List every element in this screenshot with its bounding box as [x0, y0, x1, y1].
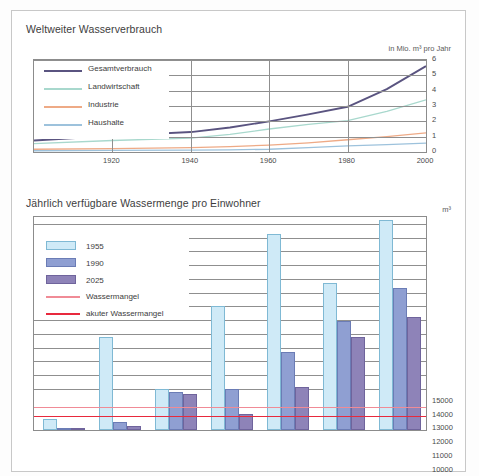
chart2-gridline: [34, 224, 426, 225]
chart2-bar: [323, 283, 337, 430]
chart2-gridline: [34, 320, 426, 321]
chart2-y-tick-label: 10000: [432, 465, 453, 474]
chart2-bar: [127, 426, 141, 430]
chart2-bar: [57, 428, 71, 430]
chart2-bar: [281, 352, 295, 430]
chart2-bar: [183, 394, 197, 430]
chart1-y-tick-label: 4: [432, 85, 436, 94]
chart2-bar: [155, 389, 169, 430]
chart2-gridline: [34, 348, 426, 349]
chart2-legend-swatch: [46, 258, 76, 267]
chart2-title: Jährlich verfügbare Wassermenge pro Einw…: [26, 197, 261, 209]
chart-weltweiter-wasserverbrauch: Weltweiter Wasserverbrauch in Mio. m³ pr…: [12, 11, 467, 189]
chart1-legend-swatch: [44, 88, 82, 90]
chart1-x-tick-label: 1980: [327, 156, 367, 165]
chart2-legend-threshold-label: Wassermangel: [86, 292, 139, 301]
chart1-x-tick-label: 1960: [248, 156, 288, 165]
chart2-legend-swatch: [46, 241, 76, 250]
chart1-x-tick-label: 2000: [405, 156, 445, 165]
chart2-y-tick-label: 15000: [432, 396, 453, 405]
chart2-legend-label: 2025: [86, 276, 104, 285]
chart2-legend-threshold-swatch: [46, 296, 80, 298]
chart2-threshold-line: [34, 407, 426, 408]
chart2-gridline: [34, 375, 426, 376]
chart2-bar: [225, 389, 239, 430]
chart2-bar: [393, 288, 407, 430]
chart1-legend-swatch: [44, 70, 82, 72]
chart2-bar: [71, 428, 85, 430]
chart1-legend-label: Industrie: [88, 100, 119, 109]
chart1-gridline-vertical: [269, 60, 270, 152]
chart2-bar: [169, 392, 183, 430]
chart1-title: Weltweiter Wasserverbrauch: [26, 23, 162, 35]
chart1-y-tick-label: 2: [432, 115, 436, 124]
chart1-legend-swatch: [44, 124, 82, 126]
chart1-y-tick-label: 6: [432, 54, 436, 63]
chart2-y-tick-label: 12000: [432, 437, 453, 446]
chart1-gridline-vertical: [191, 60, 192, 152]
chart2-y-tick-label: 11000: [432, 451, 452, 460]
chart2-bar: [113, 422, 127, 430]
chart1-gridline-vertical: [348, 60, 349, 152]
chart2-gridline: [34, 334, 426, 335]
chart2-legend-label: 1955: [86, 242, 104, 251]
chart1-x-tick-label: 1920: [91, 156, 131, 165]
chart2-bar: [379, 220, 393, 430]
chart1-legend-label: Gesamtverbrauch: [88, 64, 152, 73]
chart1-y-tick-label: 0: [432, 146, 436, 155]
chart2-bar: [337, 321, 351, 430]
chart1-y-tick-label: 1: [432, 131, 436, 140]
chart1-unit-label: in Mio. m³ pro Jahr: [388, 44, 451, 53]
chart2-bar: [407, 317, 421, 430]
chart2-bar: [267, 234, 281, 431]
chart2-legend-threshold-swatch: [46, 313, 80, 315]
chart2-y-tick-label: 13000: [432, 423, 453, 432]
chart1-y-tick-label: 5: [432, 69, 436, 78]
chart1-y-tick-label: 3: [432, 100, 436, 109]
chart2-bar: [43, 419, 57, 430]
chart2-legend-label: 1990: [86, 259, 104, 268]
figure-page: Weltweiter Wasserverbrauch in Mio. m³ pr…: [0, 0, 479, 476]
chart2-bar: [295, 387, 309, 430]
chart2-unit-label: m³: [442, 205, 451, 214]
figure-frame: Weltweiter Wasserverbrauch in Mio. m³ pr…: [11, 10, 466, 472]
chart2-legend-threshold-label: akuter Wassermangel: [86, 309, 164, 318]
chart2-y-tick-label: 14000: [432, 410, 453, 419]
chart2-gridline: [34, 361, 426, 362]
chart2-legend-swatch: [46, 275, 76, 284]
chart1-legend-swatch: [44, 106, 82, 108]
chart2-bar: [211, 306, 225, 430]
chart2-threshold-line: [34, 416, 426, 417]
chart1-legend-label: Haushalte: [88, 118, 124, 127]
chart1-x-tick-label: 1940: [170, 156, 210, 165]
chart1-legend-label: Landwirtschaft: [88, 82, 140, 91]
chart-jaehrlich-verfuegbare-wassermenge: Jährlich verfügbare Wassermenge pro Einw…: [12, 189, 467, 473]
